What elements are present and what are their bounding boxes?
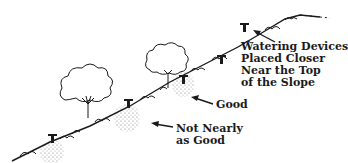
arrow-icon <box>191 95 213 104</box>
tree-left <box>60 64 112 118</box>
label-good: Good <box>216 99 248 111</box>
water-zone-bottom <box>40 140 64 163</box>
arrow-icon <box>151 121 173 127</box>
watering-device-icon <box>217 55 226 64</box>
label-line: as Good <box>176 135 243 147</box>
label-line: of the Slope <box>241 77 348 89</box>
label-not-nearly-as-good: Not Nearly as Good <box>176 123 243 147</box>
watering-device-icon <box>240 23 249 32</box>
label-top-of-slope: Watering Devices Placed Closer Near the … <box>241 41 348 89</box>
